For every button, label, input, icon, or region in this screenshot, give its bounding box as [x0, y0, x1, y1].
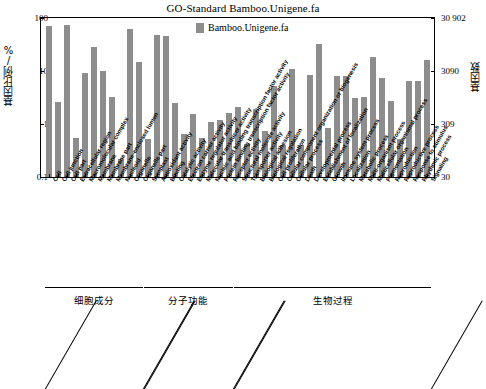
group-bracket-line [234, 287, 431, 288]
group-bracket-leg [431, 301, 483, 389]
bar [55, 102, 61, 177]
bar [64, 25, 70, 177]
y-tick-label-right: 30 902 [441, 13, 486, 23]
y-axis-label-right: 基因数 [468, 62, 483, 92]
y-axis-label-left: 基因比例/% [1, 44, 16, 106]
chart-title: GO-Standard Bamboo.Unigene.fa [0, 2, 486, 14]
x-tick-mark [49, 174, 50, 177]
group-label: 生物过程 [273, 293, 393, 307]
group-bracket-line [144, 287, 233, 288]
group-label: 分子功能 [128, 293, 248, 307]
bar [46, 26, 52, 177]
group-bracket-leg [234, 301, 286, 389]
group-bracket-leg [45, 301, 97, 389]
y-tick-mark-left [40, 177, 44, 178]
group-bracket-line [45, 287, 143, 288]
bar [316, 44, 322, 177]
group-bracket-leg [144, 301, 196, 389]
x-axis-labels: CellCell junctionCell partExtracellular … [0, 179, 486, 289]
